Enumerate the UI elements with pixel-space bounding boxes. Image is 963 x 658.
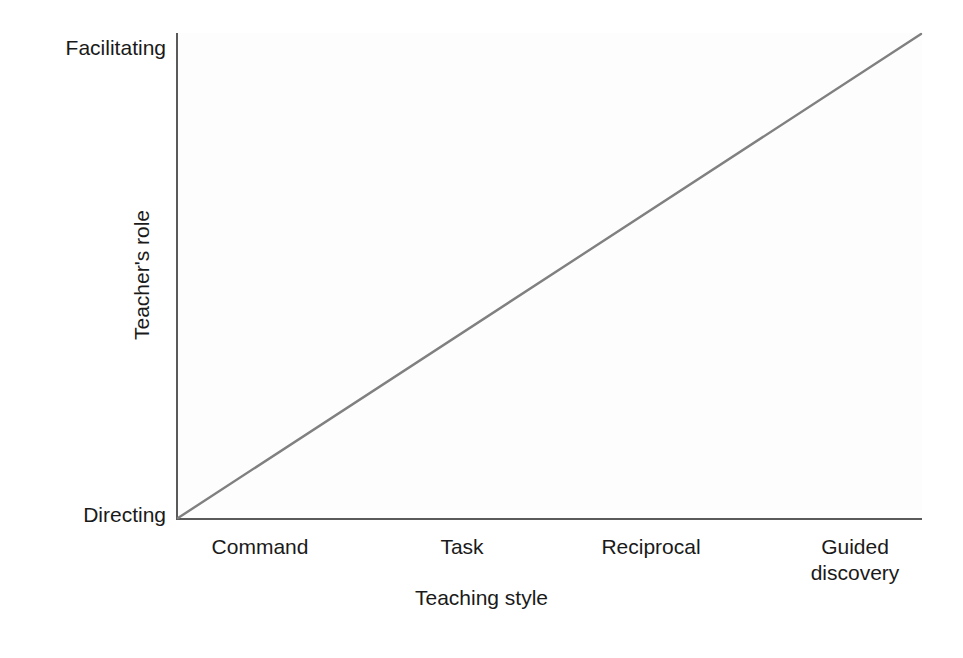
x-tick-label-guided-discovery: Guided discovery: [755, 534, 955, 586]
plot-area: [178, 33, 922, 519]
x-tick-label-reciprocal: Reciprocal: [551, 534, 751, 560]
chart-figure: Facilitating Directing Teacher's role Co…: [0, 0, 963, 658]
x-axis-line: [176, 518, 922, 520]
x-axis-title: Teaching style: [0, 586, 963, 610]
y-axis-line: [176, 33, 178, 520]
x-tick-label-command: Command: [160, 534, 360, 560]
y-tick-label-facilitating: Facilitating: [0, 35, 166, 61]
y-axis-title: Teacher's role: [130, 210, 154, 340]
x-tick-label-task: Task: [362, 534, 562, 560]
y-tick-label-directing: Directing: [0, 502, 166, 528]
